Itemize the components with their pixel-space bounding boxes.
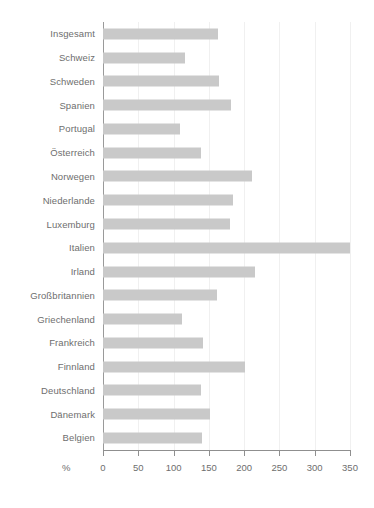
y-axis-label: Niederlande bbox=[43, 195, 95, 206]
y-axis-label: Norwegen bbox=[51, 171, 95, 182]
bar[interactable] bbox=[103, 147, 201, 158]
y-axis-label-row: Norwegen bbox=[0, 165, 95, 189]
bar[interactable] bbox=[103, 28, 218, 39]
bar-row bbox=[103, 93, 350, 117]
y-axis-label-row: Großbritannien bbox=[0, 283, 95, 307]
y-axis-label: Griechenland bbox=[37, 314, 95, 325]
bar-row bbox=[103, 141, 350, 165]
y-axis-label: Luxemburg bbox=[47, 219, 95, 230]
x-axis-tick-label: 150 bbox=[201, 462, 217, 473]
bar[interactable] bbox=[103, 195, 233, 206]
bar-row bbox=[103, 188, 350, 212]
bar-row bbox=[103, 212, 350, 236]
bar[interactable] bbox=[103, 409, 210, 420]
y-axis-label: Dänemark bbox=[50, 409, 95, 420]
bar[interactable] bbox=[103, 219, 230, 230]
y-axis-label: Finnland bbox=[58, 361, 95, 372]
bar[interactable] bbox=[103, 123, 180, 134]
y-axis-label-row: Dänemark bbox=[0, 402, 95, 426]
y-axis-label: Belgien bbox=[63, 432, 95, 443]
y-axis-label-row: Österreich bbox=[0, 141, 95, 165]
x-axis-tick bbox=[209, 451, 210, 456]
y-axis-label-row: Schweiz bbox=[0, 46, 95, 70]
y-axis-label: Insgesamt bbox=[50, 28, 95, 39]
x-axis-unit-label: % bbox=[62, 462, 70, 473]
y-axis-label: Deutschland bbox=[41, 385, 95, 396]
x-axis-tick-label: 350 bbox=[342, 462, 358, 473]
x-axis-tick bbox=[315, 451, 316, 456]
bar-row bbox=[103, 355, 350, 379]
bar-row bbox=[103, 260, 350, 284]
bar-row bbox=[103, 236, 350, 260]
x-axis-tick bbox=[279, 451, 280, 456]
y-axis-label-row: Portugal bbox=[0, 117, 95, 141]
y-axis-label: Schweiz bbox=[59, 52, 95, 63]
bar-row bbox=[103, 426, 350, 450]
y-axis-label-row: Belgien bbox=[0, 426, 95, 450]
x-axis-tick-label: 300 bbox=[307, 462, 323, 473]
x-axis-tick-label: 100 bbox=[166, 462, 182, 473]
bar-row bbox=[103, 117, 350, 141]
bar-row bbox=[103, 307, 350, 331]
y-axis-label-row: Schweden bbox=[0, 70, 95, 94]
bar-row bbox=[103, 378, 350, 402]
bar[interactable] bbox=[103, 361, 245, 372]
bar[interactable] bbox=[103, 266, 255, 277]
y-axis-label-row: Spanien bbox=[0, 93, 95, 117]
bar-chart: InsgesamtSchweizSchwedenSpanienPortugalÖ… bbox=[0, 0, 374, 508]
y-axis-label-row: Irland bbox=[0, 260, 95, 284]
bar[interactable] bbox=[103, 52, 185, 63]
bar[interactable] bbox=[103, 100, 231, 111]
bar[interactable] bbox=[103, 171, 252, 182]
bar[interactable] bbox=[103, 337, 203, 348]
x-axis-tick bbox=[244, 451, 245, 456]
x-axis-tick-label: 200 bbox=[236, 462, 252, 473]
bar-row bbox=[103, 402, 350, 426]
y-axis-label-row: Finnland bbox=[0, 355, 95, 379]
y-axis-label-row: Italien bbox=[0, 236, 95, 260]
bar-row bbox=[103, 165, 350, 189]
bar-row bbox=[103, 46, 350, 70]
y-axis-label-row: Luxemburg bbox=[0, 212, 95, 236]
y-axis-label: Italien bbox=[69, 242, 95, 253]
bar[interactable] bbox=[103, 385, 201, 396]
bar[interactable] bbox=[103, 242, 350, 253]
y-axis-label-row: Frankreich bbox=[0, 331, 95, 355]
y-axis-label: Frankreich bbox=[49, 337, 95, 348]
x-axis-tick bbox=[350, 451, 351, 456]
y-axis-labels: InsgesamtSchweizSchwedenSpanienPortugalÖ… bbox=[0, 22, 95, 450]
y-axis-label-row: Insgesamt bbox=[0, 22, 95, 46]
bar[interactable] bbox=[103, 76, 219, 87]
y-axis-label: Großbritannien bbox=[30, 290, 95, 301]
y-axis-label: Spanien bbox=[59, 100, 95, 111]
gridline-350 bbox=[350, 22, 351, 450]
y-axis-label: Schweden bbox=[50, 76, 95, 87]
bar[interactable] bbox=[103, 290, 217, 301]
bar-row bbox=[103, 331, 350, 355]
bar-row bbox=[103, 283, 350, 307]
bar-row bbox=[103, 70, 350, 94]
x-axis-tick-label: 0 bbox=[100, 462, 105, 473]
bar[interactable] bbox=[103, 432, 202, 443]
x-axis-tick bbox=[138, 451, 139, 456]
bar-row bbox=[103, 22, 350, 46]
x-axis-tick bbox=[103, 451, 104, 456]
x-axis-tick bbox=[174, 451, 175, 456]
y-axis-label-row: Niederlande bbox=[0, 188, 95, 212]
y-axis-label: Österreich bbox=[50, 147, 95, 158]
bar[interactable] bbox=[103, 314, 182, 325]
bars-container bbox=[103, 22, 350, 450]
x-axis-tick-label: 250 bbox=[271, 462, 287, 473]
y-axis-label-row: Griechenland bbox=[0, 307, 95, 331]
y-axis-label-row: Deutschland bbox=[0, 378, 95, 402]
y-axis-label: Irland bbox=[71, 266, 95, 277]
x-axis-tick-label: 50 bbox=[133, 462, 144, 473]
y-axis-label: Portugal bbox=[59, 123, 95, 134]
